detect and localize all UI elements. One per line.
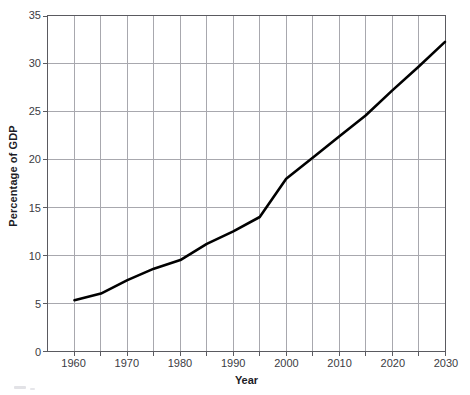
gdp-percentage-line-chart: Percentage of GDP 05101520253035 1960197… bbox=[0, 0, 470, 395]
data-series-line bbox=[48, 16, 445, 351]
plot-area bbox=[47, 15, 446, 352]
y-axis-tick-labels: 05101520253035 bbox=[8, 15, 41, 352]
y-axis-tick-label: 30 bbox=[11, 57, 41, 69]
scan-artifact bbox=[14, 386, 26, 389]
y-axis-tick-label: 25 bbox=[11, 105, 41, 117]
x-axis-tick-label: 2020 bbox=[368, 357, 418, 369]
x-axis-title-label: Year bbox=[235, 374, 258, 386]
y-axis-tick-label: 15 bbox=[11, 202, 41, 214]
x-axis-tick-label: 1970 bbox=[102, 357, 152, 369]
y-axis-tick-label: 20 bbox=[11, 153, 41, 165]
x-axis-tick-labels: 19601970198019902000201020202030 bbox=[47, 357, 446, 373]
y-axis-tick-label: 0 bbox=[11, 346, 41, 358]
x-axis-title: Year bbox=[47, 374, 446, 386]
scan-artifact bbox=[30, 388, 35, 390]
x-axis-tick-label: 2030 bbox=[421, 357, 470, 369]
x-axis-tick-label: 1990 bbox=[208, 357, 258, 369]
x-axis-tick-label: 1980 bbox=[155, 357, 205, 369]
y-axis-tick-label: 5 bbox=[11, 298, 41, 310]
x-axis-tick-label: 2010 bbox=[315, 357, 365, 369]
y-axis-tick-label: 10 bbox=[11, 250, 41, 262]
y-axis-tick-label: 35 bbox=[11, 9, 41, 21]
x-axis-tick-label: 2000 bbox=[261, 357, 311, 369]
x-axis-tick-label: 1960 bbox=[49, 357, 99, 369]
